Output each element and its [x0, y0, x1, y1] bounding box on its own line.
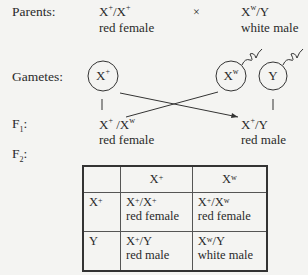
f1-male-genotype: X+/Y [241, 117, 268, 133]
punnett-cell: X+/Yred male [121, 231, 193, 271]
punnett-cell: X+/X+red female [121, 192, 193, 231]
punnett-corner [83, 166, 121, 192]
punnett-row-header: Y [83, 231, 121, 271]
punnett-row-header: X+ [83, 192, 121, 231]
punnett-col-header: Xw [192, 166, 267, 192]
f1-male-phenotype: red male [241, 132, 286, 148]
punnett-col-header: X+ [121, 166, 193, 192]
f1-female-genotype: X+ /Xw [99, 117, 135, 133]
f1-female-phenotype: red female [99, 132, 154, 148]
gamete-y: Y [259, 68, 287, 84]
punnett-cell: Xw/Ywhite male [192, 231, 267, 271]
punnett-cell: X+/Xwred female [192, 192, 267, 231]
gamete-x-plus: X+ [88, 68, 118, 84]
gamete-x-w: Xw [216, 68, 246, 84]
punnett-square: X+ Xw X+ X+/X+red female X+/Xwred female… [82, 165, 268, 272]
